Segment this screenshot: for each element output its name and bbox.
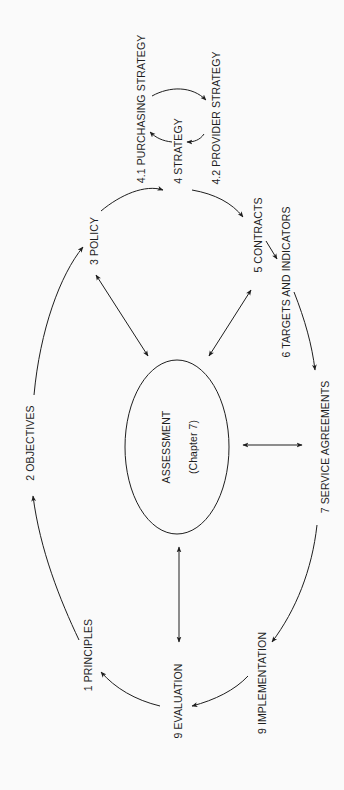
arrow-strategy-to-purchasing [150, 132, 172, 142]
node-evaluation: 9 EVALUATION [172, 664, 184, 739]
arrow-assessment-contracts [209, 290, 251, 356]
node-implementation: 9 IMPLEMENTATION [256, 632, 268, 734]
node-strategy: 4 STRATEGY [172, 118, 184, 184]
arrow-assessment-policy [96, 275, 148, 356]
arrow-purchasing-to-provider [152, 89, 206, 100]
arrow-implementation-to-evaluation [192, 676, 248, 706]
arrow-objectives-to-policy [34, 247, 83, 395]
node-targets-indicators: 6 TARGETS AND INDICATORS [280, 207, 292, 358]
node-provider-strategy: 4.2 PROVIDER STRATEGY [210, 51, 222, 184]
assessment-ellipse [125, 360, 229, 534]
node-purchasing-strategy: 4.1 PURCHASING STRATEGY [135, 35, 147, 184]
arrow-targets-to-service [294, 292, 315, 370]
arrow-provider-to-strategy [187, 134, 204, 142]
node-principles: 1 PRINCIPLES [82, 619, 94, 691]
node-service-agreements: 7 SERVICE AGREEMENTS [319, 381, 331, 514]
node-objectives: 2 OBJECTIVES [24, 405, 36, 480]
node-contracts: 5 CONTRACTS [252, 197, 264, 272]
arrow-contracts-to-targets [266, 241, 277, 259]
arrow-policy-to-strategy [101, 188, 163, 211]
node-policy: 3 POLICY [88, 217, 100, 265]
arrow-service-to-implementation [272, 525, 317, 642]
arrow-strategy-to-contracts [192, 190, 243, 217]
assessment-sublabel: (Chapter 7) [187, 420, 199, 474]
assessment-label: ASSESSMENT [160, 411, 172, 484]
arrow-principles-to-objectives [33, 496, 79, 640]
arrow-evaluation-to-principles [101, 672, 160, 706]
diagram-canvas: ASSESSMENT (Chapter 7) 1 PRINCIPLES 2 OB… [0, 0, 344, 790]
